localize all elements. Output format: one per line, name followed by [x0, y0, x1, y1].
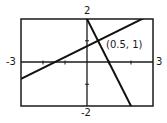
y-max-label: 2	[84, 6, 90, 16]
y-min-label: -2	[81, 108, 91, 118]
x-min-label: -3	[6, 57, 16, 67]
graph-plot	[0, 0, 167, 123]
x-max-label: 3	[156, 57, 162, 67]
intersection-label: (0.5, 1)	[106, 40, 142, 50]
